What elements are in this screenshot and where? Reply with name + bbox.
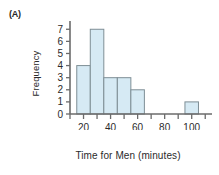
x-tick-label: 100 xyxy=(183,122,200,130)
y-tick-label: 6 xyxy=(57,36,63,47)
y-axis-title-text: Frequency xyxy=(31,50,42,96)
histogram-figure: (A) Frequency 01234567 20406080100 Time … xyxy=(0,0,219,175)
histogram-bar xyxy=(104,78,118,114)
x-axis-title: Time for Men (minutes) xyxy=(44,150,212,161)
histogram-bar xyxy=(77,66,91,114)
x-tick-label: 40 xyxy=(105,122,117,130)
x-tick-label: 20 xyxy=(78,122,90,130)
y-tick-label: 4 xyxy=(57,60,63,71)
y-tick-label: 3 xyxy=(57,72,63,83)
y-tick-labels: 01234567 xyxy=(57,24,63,120)
histogram-bar xyxy=(117,78,131,114)
histogram-bar xyxy=(90,29,104,114)
histogram-svg: 01234567 20406080100 xyxy=(44,18,214,130)
x-tick-labels: 20406080100 xyxy=(78,122,201,130)
histogram-bar xyxy=(131,90,145,114)
y-tick-label: 5 xyxy=(57,48,63,59)
plot-area: 01234567 20406080100 xyxy=(44,18,214,130)
histogram-bar xyxy=(185,102,199,114)
x-tick-label: 60 xyxy=(132,122,144,130)
y-tick-label: 7 xyxy=(57,24,63,35)
panel-label: (A) xyxy=(9,9,21,19)
y-tick-label: 2 xyxy=(57,84,63,95)
y-axis-title: Frequency xyxy=(29,30,43,116)
y-tick-label: 0 xyxy=(57,109,63,120)
y-tick-label: 1 xyxy=(57,96,63,107)
bar-series xyxy=(77,29,199,114)
x-tick-label: 80 xyxy=(159,122,171,130)
